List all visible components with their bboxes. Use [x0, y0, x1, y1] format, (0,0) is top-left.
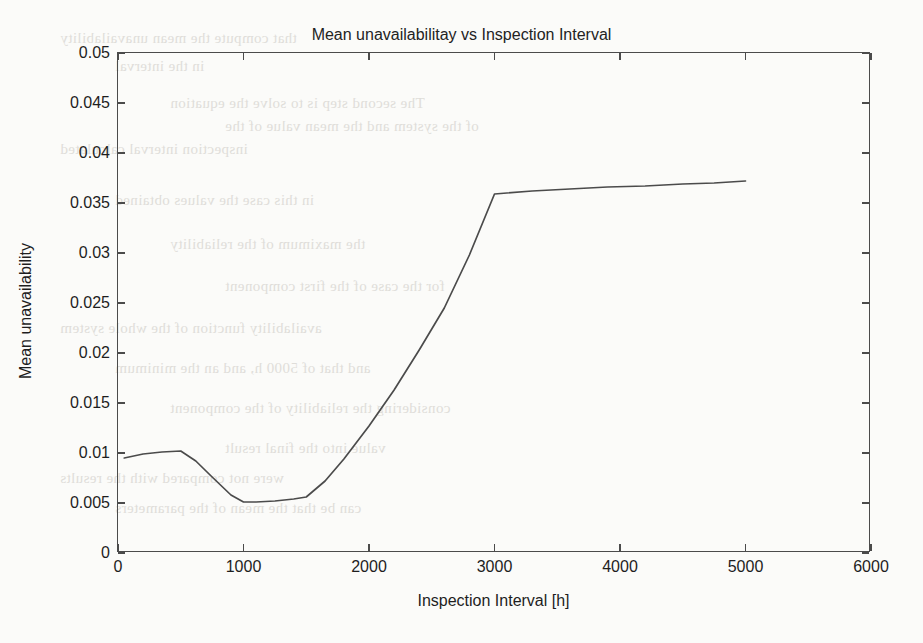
- y-axis-tick-label: 0.04: [79, 144, 110, 162]
- y-axis-tick: [118, 402, 125, 404]
- y-axis-tick: [118, 302, 125, 304]
- x-axis-tick: [494, 544, 496, 551]
- x-axis-tick: [870, 544, 872, 551]
- x-axis-tick-top: [619, 53, 621, 60]
- y-axis-tick-label: 0.02: [79, 344, 110, 362]
- x-axis-tick: [368, 544, 370, 551]
- x-axis-tick-top: [117, 53, 119, 60]
- y-axis-tick: [118, 502, 125, 504]
- x-axis-tick: [745, 544, 747, 551]
- x-axis-title: Inspection Interval [h]: [117, 592, 870, 610]
- x-axis-tick: [117, 544, 119, 551]
- data-series-line: [124, 181, 745, 502]
- y-axis-tick-label: 0.03: [79, 244, 110, 262]
- y-axis-tick-right: [862, 252, 869, 254]
- y-axis-tick-label: 0.015: [70, 394, 110, 412]
- y-axis-tick: [118, 552, 125, 554]
- x-axis-tick-label: 0: [114, 558, 123, 576]
- x-axis-tick-top: [368, 53, 370, 60]
- x-axis-tick-label: 2000: [351, 558, 387, 576]
- y-axis-title: Mean unavailability: [17, 211, 35, 411]
- y-axis-tick-label: 0.01: [79, 444, 110, 462]
- y-axis-tick-right: [862, 502, 869, 504]
- x-axis-tick-top: [494, 53, 496, 60]
- x-axis-tick: [619, 544, 621, 551]
- data-line-svg: [118, 53, 871, 553]
- y-axis-tick-right: [862, 452, 869, 454]
- y-axis-tick-right: [862, 102, 869, 104]
- x-axis-tick-top: [243, 53, 245, 60]
- y-axis-tick: [118, 52, 125, 54]
- x-axis-tick-label: 5000: [728, 558, 764, 576]
- y-axis-tick-label: 0.035: [70, 194, 110, 212]
- y-axis-tick-right: [862, 202, 869, 204]
- y-axis-tick-label: 0.045: [70, 94, 110, 112]
- y-axis-tick: [118, 452, 125, 454]
- y-axis-tick: [118, 352, 125, 354]
- y-axis-tick-right: [862, 52, 869, 54]
- x-axis-tick-top: [745, 53, 747, 60]
- y-axis-tick-right: [862, 302, 869, 304]
- y-axis-tick-label: 0: [101, 544, 110, 562]
- y-axis-tick-right: [862, 152, 869, 154]
- x-axis-tick-label: 1000: [226, 558, 262, 576]
- y-axis-tick: [118, 152, 125, 154]
- plot-area: 00.0050.010.0150.020.0250.030.0350.040.0…: [117, 52, 870, 552]
- y-axis-tick: [118, 202, 125, 204]
- chart-figure: Mean unavailabilitay vs Inspection Inter…: [0, 0, 923, 643]
- x-axis-tick: [243, 544, 245, 551]
- y-axis-tick: [118, 252, 125, 254]
- y-axis-tick-right: [862, 402, 869, 404]
- y-axis-tick-right: [862, 552, 869, 554]
- chart-title: Mean unavailabilitay vs Inspection Inter…: [0, 26, 923, 44]
- x-axis-tick-top: [870, 53, 872, 60]
- x-axis-tick-label: 4000: [602, 558, 638, 576]
- y-axis-tick-label: 0.005: [70, 494, 110, 512]
- y-axis-tick-right: [862, 352, 869, 354]
- y-axis-tick-label: 0.025: [70, 294, 110, 312]
- y-axis-tick-label: 0.05: [79, 44, 110, 62]
- y-axis-tick: [118, 102, 125, 104]
- x-axis-tick-label: 6000: [853, 558, 889, 576]
- x-axis-tick-label: 3000: [477, 558, 513, 576]
